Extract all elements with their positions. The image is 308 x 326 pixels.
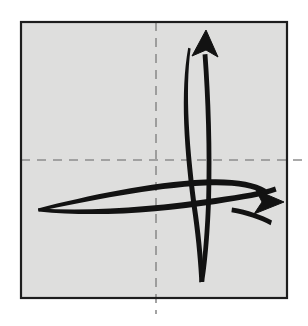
diagram-canvas — [0, 0, 308, 326]
origami-diagram: Origami step: square sheet with horizont… — [0, 0, 308, 326]
